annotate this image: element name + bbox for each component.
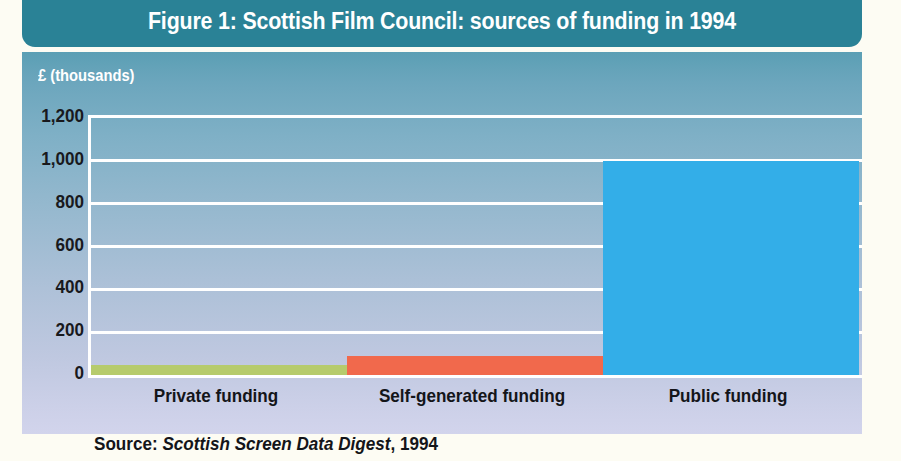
bar-private-funding[interactable] — [91, 365, 347, 375]
y-axis-tick-labels: 02004006008001,0001,200 — [22, 115, 84, 378]
y-tick-label-0: 0 — [28, 362, 84, 384]
y-tick-label-200: 200 — [28, 319, 84, 341]
chart-panel: £ (thousands) 02004006008001,0001,200 Pr… — [22, 52, 862, 434]
source-publication: Scottish Screen Data Digest — [162, 433, 390, 454]
figure-container: Figure 1: Scottish Film Council: sources… — [0, 0, 901, 461]
bar-public-funding[interactable] — [603, 161, 859, 375]
x-label-0: Private funding — [101, 385, 331, 407]
y-tick-label-1200: 1,200 — [28, 105, 84, 127]
y-axis-unit-label: £ (thousands) — [38, 67, 134, 85]
plot-area — [88, 115, 862, 378]
figure-title: Figure 1: Scottish Film Council: sources… — [51, 8, 832, 35]
source-suffix: , 1994 — [391, 433, 439, 454]
source-note: Source: Scottish Screen Data Digest, 199… — [94, 433, 438, 455]
source-prefix: Source: — [94, 433, 162, 454]
plot-inner — [91, 118, 862, 375]
y-tick-label-1000: 1,000 — [28, 148, 84, 170]
x-label-1: Self-generated funding — [357, 385, 587, 407]
x-axis-tick-labels: Private fundingSelf-generated fundingPub… — [88, 385, 862, 415]
y-tick-label-400: 400 — [28, 276, 84, 298]
figure-title-bar: Figure 1: Scottish Film Council: sources… — [22, 0, 862, 47]
bar-self-generated-funding[interactable] — [347, 356, 603, 375]
y-tick-label-800: 800 — [28, 191, 84, 213]
x-label-2: Public funding — [613, 385, 843, 407]
y-tick-label-600: 600 — [28, 234, 84, 256]
